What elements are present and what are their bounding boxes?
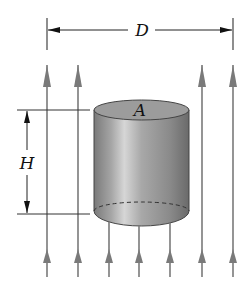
diagram-figure: D H [0, 0, 250, 294]
width-dimension: D [47, 18, 233, 50]
cylinder: A [94, 100, 189, 226]
field-lines-inner [105, 222, 174, 277]
width-label-d: D [134, 20, 149, 40]
area-label-a: A [132, 100, 146, 120]
height-dimension: H [17, 110, 90, 214]
height-label-h: H [19, 153, 36, 173]
